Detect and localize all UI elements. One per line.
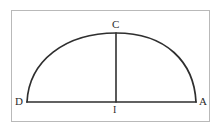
point-label-d: D (15, 96, 23, 107)
figure-page: C D A I (0, 0, 224, 133)
point-label-i: I (113, 104, 116, 115)
arc-DCA (27, 33, 196, 102)
point-label-c: C (112, 19, 119, 30)
point-label-a: A (199, 96, 207, 107)
